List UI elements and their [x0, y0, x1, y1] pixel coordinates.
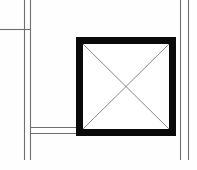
- cad-drawing-canvas[interactable]: [0, 0, 197, 170]
- plan-drawing-svg: [0, 0, 197, 170]
